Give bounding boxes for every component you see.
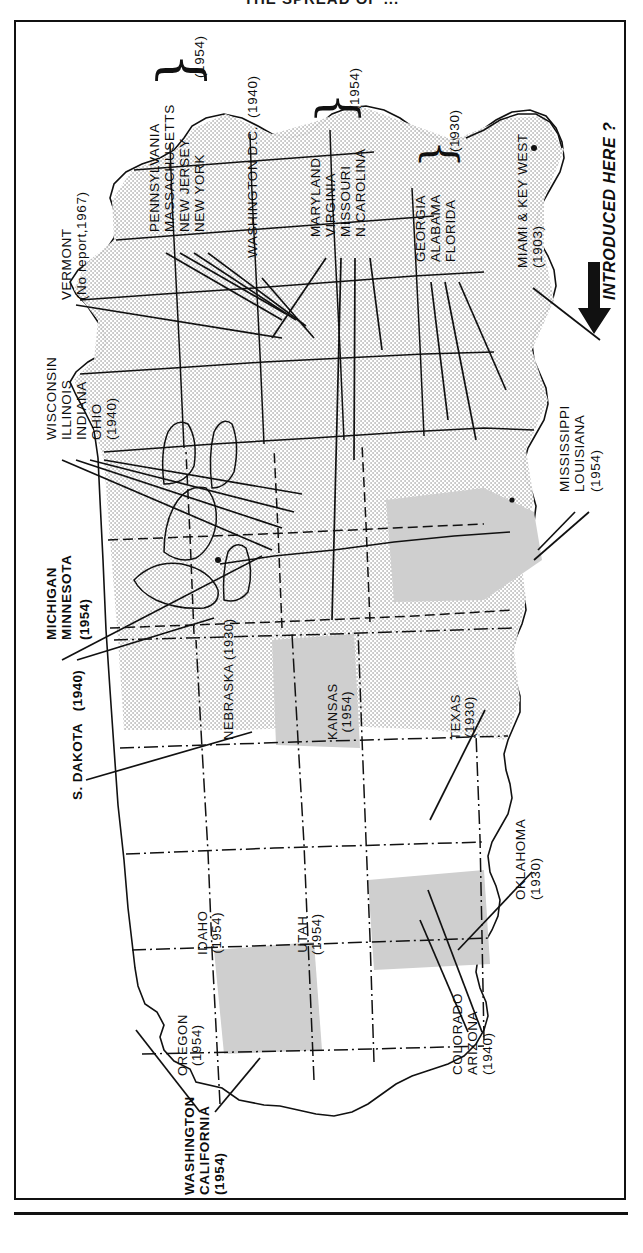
map-label-nebraska: NEBRASKA (1930) xyxy=(222,618,236,740)
label-deep-south-year: (1930) xyxy=(447,109,462,152)
map-label-oregon-name: OREGON xyxy=(176,1014,190,1076)
label-gulf-group: MISSISSIPPI LOUISIANA xyxy=(558,405,588,492)
label-oklahoma: OKLAHOMA (1930) xyxy=(514,819,544,900)
label-great-lakes-group: WISCONSIN ILLINOIS INDIANA OHIO xyxy=(45,357,104,440)
label-washington-california: WASHINGTON CALIFORNIA (1954) xyxy=(183,1096,228,1195)
label-colorado-arizona: COLORADO ARIZONA (1940) xyxy=(451,993,496,1075)
label-illinois: ILLINOIS xyxy=(60,357,75,440)
label-miami-name: MIAMI & KEY WEST xyxy=(516,133,531,268)
figure-title-strip: THE SPREAD OF ... xyxy=(0,0,643,16)
label-california: CALIFORNIA xyxy=(198,1096,213,1195)
label-maryland: MARYLAND xyxy=(309,148,324,237)
label-new-jersey: NEW JERSEY xyxy=(178,104,193,232)
label-washington-state: WASHINGTON xyxy=(183,1096,198,1195)
label-gulf-year: (1954) xyxy=(588,449,603,492)
shaded-block-nw xyxy=(214,942,322,1054)
map-label-utah-year: (1954) xyxy=(310,913,324,955)
label-massachusetts: MASSACHUSETTS xyxy=(163,104,178,232)
label-wisconsin: WISCONSIN xyxy=(45,357,60,440)
label-michigan-minnesota: MICHIGAN MINNESOTA xyxy=(45,555,75,640)
map-label-oregon-year: (1954) xyxy=(190,1014,204,1076)
figure-page: THE SPREAD OF ... xyxy=(0,0,643,1253)
label-colorado: COLORADO xyxy=(451,993,466,1075)
map-label-kansas-name: KANSAS xyxy=(326,683,340,740)
label-missouri: MISSOURI xyxy=(339,148,354,237)
label-new-york: NEW YORK xyxy=(193,104,208,232)
label-s-dakota-year: (1940) xyxy=(70,670,85,711)
label-washington-california-year: (1954) xyxy=(213,1096,228,1195)
label-virginia: VIRGINIA xyxy=(324,148,339,237)
label-northeast-group: PENNSYLVANIA MASSACHUSETTS NEW JERSEY NE… xyxy=(148,104,207,232)
figure-bottom-rule xyxy=(14,1212,628,1215)
map-label-oregon: OREGON (1954) xyxy=(176,1014,205,1076)
label-oklahoma-year: (1930) xyxy=(529,819,544,900)
label-michigan-minnesota-year: (1954) xyxy=(77,599,92,640)
label-arizona: ARIZONA xyxy=(466,993,481,1075)
down-arrow-icon xyxy=(578,262,612,336)
map-label-idaho-name: IDAHO xyxy=(196,910,210,955)
map-label-utah-name: UTAH xyxy=(296,913,310,955)
label-midatlantic-year: (1954) xyxy=(347,67,362,110)
map-label-nebraska-text: NEBRASKA (1930) xyxy=(222,618,236,740)
map-label-utah: UTAH (1954) xyxy=(296,913,325,955)
label-colorado-arizona-year: (1940) xyxy=(481,993,496,1075)
label-florida: FLORIDA xyxy=(444,194,459,262)
map-label-idaho-year: (1954) xyxy=(210,910,224,955)
label-miami-key-west: MIAMI & KEY WEST (1903) xyxy=(516,133,546,268)
label-oklahoma-name: OKLAHOMA xyxy=(514,819,529,900)
label-midatlantic-group: MARYLAND VIRGINIA MISSOURI N.CAROLINA xyxy=(309,148,368,237)
label-pennsylvania: PENNSYLVANIA xyxy=(148,104,163,232)
label-michigan: MICHIGAN xyxy=(45,555,60,640)
label-louisiana: LOUISIANA xyxy=(573,405,588,492)
label-georgia: GEORGIA xyxy=(414,194,429,262)
label-indiana: INDIANA xyxy=(75,357,90,440)
label-northeast-year: (1954) xyxy=(192,35,207,78)
label-minnesota: MINNESOTA xyxy=(60,555,75,640)
label-n-carolina: N.CAROLINA xyxy=(354,148,369,237)
label-vermont-year: (No report,1967) xyxy=(75,191,90,300)
label-ohio: OHIO xyxy=(90,357,105,440)
label-s-dakota-name: S. DAKOTA xyxy=(70,724,85,800)
label-deep-south-group: GEORGIA ALABAMA FLORIDA xyxy=(414,194,459,262)
map-label-kansas: KANSAS (1954) xyxy=(326,683,355,740)
label-s-dakota: S. DAKOTA (1940) xyxy=(70,670,85,800)
label-washington-dc: WASHINGTON D.C. xyxy=(245,126,260,258)
page-title: THE SPREAD OF ... xyxy=(0,0,643,7)
label-great-lakes-year: (1940) xyxy=(104,397,119,440)
label-alabama: ALABAMA xyxy=(429,194,444,262)
shaded-block-sw xyxy=(368,870,490,970)
label-vermont-name: VERMONT xyxy=(60,191,75,300)
map-label-texas-year: (1930) xyxy=(463,694,477,740)
map-label-texas-name: TEXAS xyxy=(449,694,463,740)
label-washington-dc-year: (1940) xyxy=(245,75,260,118)
map-label-idaho: IDAHO (1954) xyxy=(196,910,225,955)
label-vermont: VERMONT (No report,1967) xyxy=(60,191,90,300)
label-miami-year: (1903) xyxy=(531,133,546,268)
map-label-texas: TEXAS (1930) xyxy=(449,694,478,740)
map-label-kansas-year: (1954) xyxy=(340,683,354,740)
label-mississippi: MISSISSIPPI xyxy=(558,405,573,492)
